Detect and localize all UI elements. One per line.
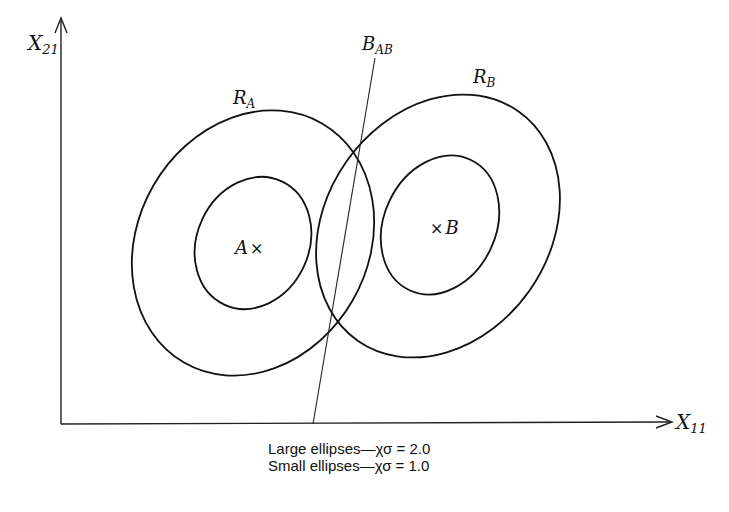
caption-large-ellipses: Large ellipses—χσ = 2.0: [268, 440, 430, 457]
boundary-line: [313, 58, 375, 424]
caption-small-ellipses: Small ellipses—χσ = 1.0: [268, 457, 429, 474]
y-axis-label: X21: [26, 31, 59, 57]
center-a-label: A×: [233, 237, 263, 258]
diagram-canvas: X21 X11 RA RB BAB A× ×B: [0, 0, 729, 512]
x-axis-label: X11: [674, 410, 707, 436]
x-axis: [61, 422, 670, 424]
boundary-label: BAB: [361, 33, 393, 57]
region-a-label: RA: [232, 87, 256, 111]
region-b-label: RB: [472, 66, 496, 90]
center-b-label: ×B: [430, 217, 459, 238]
